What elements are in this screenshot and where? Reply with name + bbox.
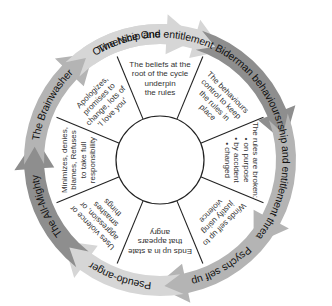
wedge-text-line: underpin [144, 79, 175, 88]
wedge-text-line: to take full [79, 142, 88, 179]
wedge-text-line: The beliefs at the [129, 60, 191, 69]
center-circle [116, 116, 204, 204]
wedge-text-line: root of the cycle [132, 69, 189, 78]
wedge-text-line: • on purpose [242, 137, 251, 183]
wedge-text-line: Ends up in a state [127, 247, 192, 256]
wedge-text-line: blames, Refuses [69, 130, 78, 190]
wedge-2: The rules are broken:• on purpose• by ac… [223, 122, 261, 198]
wedge-text-line: angry [150, 228, 170, 237]
wedge-0: The beliefs at theroot of the cycleunder… [129, 60, 191, 98]
wedge-text-line: • changed [223, 142, 232, 178]
wedge-1: The behaviourscontrol to keepthe rules i… [185, 70, 251, 136]
wedge-6: Minimizes, denies,blames, Refusesto take… [60, 127, 98, 193]
wedge-text-line: responsibility [88, 137, 97, 183]
wedge-text-line: that appears [138, 237, 182, 246]
wedge-4: Ends up in a statethat appearsangry [127, 228, 192, 256]
wedge-3: Winds self up tojustify usingviolence [187, 188, 247, 248]
wedge-text-line: The rules are broken: [251, 122, 260, 198]
wedge-text-line: the rules [145, 88, 176, 97]
wedge-text-line: Minimizes, denies, [60, 127, 69, 193]
wedge-text-line: • by accident [232, 137, 241, 183]
abuse-cycle-diagram: The beliefs at theroot of the cycleunder… [0, 0, 332, 306]
